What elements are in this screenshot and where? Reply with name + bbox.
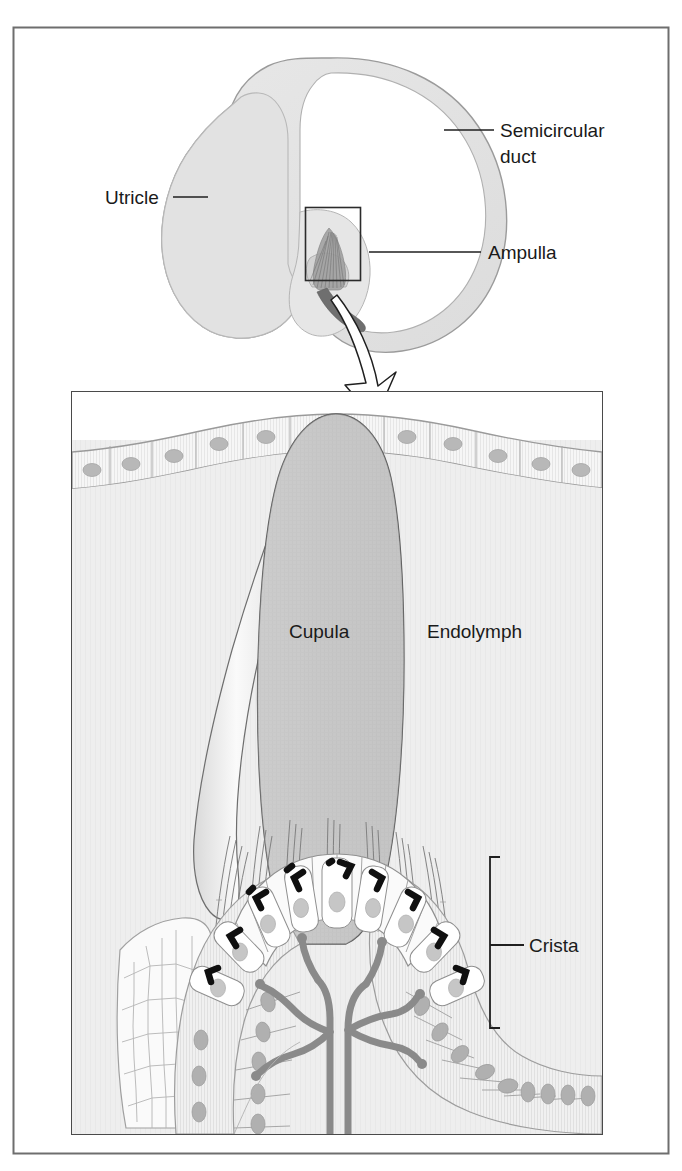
utricle-label: Utricle [105,187,159,208]
endolymph-label: Endolymph [427,621,522,642]
crista-label: Crista [529,935,579,956]
anatomical-figure: Semicircular duct Ampulla Utricle [0,0,682,1171]
cupula-label: Cupula [289,621,350,642]
semicircular-duct-label-line2: duct [500,146,537,167]
detail-panel: Crista Cupula Endolymph [72,392,602,1134]
ampulla-label: Ampulla [488,242,557,263]
semicircular-duct-label-line1: Semicircular [500,120,605,141]
